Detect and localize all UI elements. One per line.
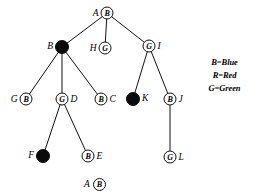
node-f-label: F [28, 151, 34, 161]
node-e[interactable]: BE [82, 150, 95, 163]
node-a-label: A [93, 8, 99, 18]
legend-line-1: R=Red [196, 69, 253, 82]
node-i-color-code: G [146, 42, 152, 50]
node-l[interactable]: GL [164, 151, 177, 164]
node-c-color-code: B [98, 95, 103, 103]
legend-line-2: G=Green [196, 82, 253, 95]
edge-b-c [62, 47, 101, 99]
footer-node: A B [0, 178, 190, 191]
node-j[interactable]: BJ [164, 93, 177, 106]
node-i-circle[interactable]: G [143, 40, 156, 53]
node-c[interactable]: BC [95, 93, 108, 106]
node-g-color-code: B [23, 95, 28, 103]
edge-b-g [26, 47, 62, 99]
color-legend: B=BlueR=RedG=Green [196, 56, 253, 95]
node-d-circle[interactable]: G [56, 93, 69, 106]
node-g[interactable]: BG [20, 93, 33, 106]
node-e-label: E [97, 151, 103, 161]
node-j-label: J [179, 94, 183, 104]
node-k[interactable]: K [126, 92, 140, 106]
node-d-label: D [71, 94, 78, 104]
node-k-label: K [142, 94, 148, 104]
edge-d-f [43, 99, 62, 156]
node-c-circle[interactable]: B [95, 93, 108, 106]
node-b[interactable]: B [55, 40, 69, 54]
node-i[interactable]: GI [143, 40, 156, 53]
node-f[interactable]: F [36, 149, 50, 163]
node-a[interactable]: BA [101, 7, 114, 20]
node-l-color-code: G [167, 153, 173, 161]
node-a-circle[interactable]: B [101, 7, 114, 20]
node-l-label: L [179, 152, 184, 162]
node-a-color-code: B [104, 9, 109, 17]
node-j-circle[interactable]: B [164, 93, 177, 106]
footer-node-color-code: B [97, 181, 102, 189]
node-h-label: H [90, 43, 97, 53]
node-e-circle[interactable]: B [82, 150, 95, 163]
node-h-color-code: G [102, 44, 108, 52]
node-e-color-code: B [85, 152, 90, 160]
node-k-circle[interactable] [126, 92, 140, 106]
node-g-circle[interactable]: B [20, 93, 33, 106]
edge-i-j [149, 46, 170, 99]
node-b-circle[interactable] [55, 40, 69, 54]
footer-node-circle: B [93, 178, 106, 191]
edge-d-e [62, 99, 88, 156]
node-c-label: C [110, 94, 116, 104]
node-j-color-code: B [167, 95, 172, 103]
diagram-canvas: BABGHGIBGGDBCKBJFBEGL B=BlueR=RedG=Green… [0, 0, 253, 194]
legend-line-0: B=Blue [196, 56, 253, 69]
node-h-circle[interactable]: G [99, 42, 112, 55]
footer-node-label: A [84, 180, 90, 190]
node-h[interactable]: GH [99, 42, 112, 55]
node-l-circle[interactable]: G [164, 151, 177, 164]
node-g-label: G [11, 94, 18, 104]
node-i-label: I [158, 41, 161, 51]
node-f-circle[interactable] [36, 149, 50, 163]
node-b-label: B [47, 42, 53, 52]
node-d-color-code: G [59, 95, 65, 103]
node-d[interactable]: GD [56, 93, 69, 106]
